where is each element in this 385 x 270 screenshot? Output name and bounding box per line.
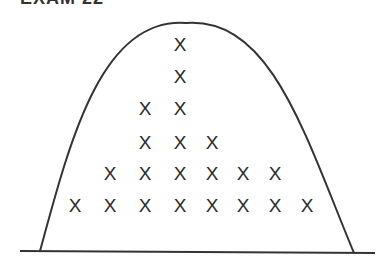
x-mark: X <box>139 98 152 119</box>
x-mark: X <box>206 163 219 184</box>
x-mark: X <box>301 195 314 216</box>
x-mark: X <box>104 195 117 216</box>
x-mark: X <box>206 195 219 216</box>
baseline <box>20 251 375 253</box>
x-mark: X <box>174 195 187 216</box>
x-mark: X <box>69 195 82 216</box>
x-mark: X <box>139 132 152 153</box>
x-mark: X <box>104 163 117 184</box>
x-mark: X <box>269 195 282 216</box>
x-mark: X <box>174 163 187 184</box>
x-mark: X <box>174 98 187 119</box>
x-mark: X <box>237 163 250 184</box>
distribution-diagram: XXXXXXXXXXXXXXXXXXXXX <box>0 0 385 270</box>
x-mark: X <box>237 195 250 216</box>
x-mark: X <box>174 34 187 55</box>
bell-curve <box>40 23 354 253</box>
x-mark: X <box>139 195 152 216</box>
x-mark: X <box>269 163 282 184</box>
x-mark: X <box>139 163 152 184</box>
x-mark: X <box>174 66 187 87</box>
x-mark: X <box>206 132 219 153</box>
x-mark: X <box>174 132 187 153</box>
